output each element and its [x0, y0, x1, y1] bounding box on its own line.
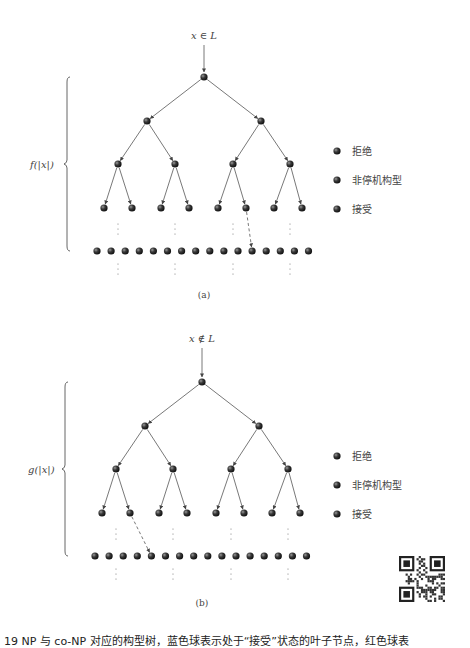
- tree-node: [298, 204, 305, 211]
- leaf-node: [277, 247, 284, 254]
- leaf-node: [303, 552, 310, 559]
- leaf-node: [178, 247, 185, 254]
- tree-node: [155, 509, 162, 516]
- tree-node: [198, 378, 205, 385]
- legend-label: 非停机构型: [352, 174, 402, 186]
- red-ball-icon: [333, 452, 340, 459]
- leaf-node: [249, 247, 256, 254]
- tree-node: [212, 509, 219, 516]
- tree-node: [171, 160, 178, 167]
- leaf-node: [122, 247, 129, 254]
- leaf-node: [247, 552, 254, 559]
- tree-node: [284, 465, 291, 472]
- legend-label: 接受: [352, 203, 372, 215]
- legend-b: 拒绝非停机构型接受: [333, 450, 402, 520]
- tree-node: [183, 509, 190, 516]
- tree-node: [100, 204, 107, 211]
- tree-node: [114, 160, 121, 167]
- tree-node: [157, 204, 164, 211]
- leaf-node: [120, 552, 127, 559]
- tree-node: [227, 465, 234, 472]
- panel-a: x ∈ L f(|x|) (a): [29, 30, 312, 300]
- legend-a: 拒绝非停机构型接受: [333, 145, 402, 215]
- tree-node: [229, 160, 236, 167]
- leaf-node: [291, 247, 298, 254]
- legend-label: 拒绝: [352, 450, 372, 462]
- dark-ball-icon: [333, 176, 340, 183]
- leaf-node: [176, 552, 183, 559]
- legend-label: 非停机构型: [352, 479, 402, 491]
- leaf-node: [108, 247, 115, 254]
- brace-b: [62, 382, 68, 556]
- leaf-node: [263, 247, 270, 254]
- sublabel-a: (a): [198, 290, 210, 300]
- tree-node: [286, 160, 293, 167]
- dark-ball-icon: [333, 481, 340, 488]
- leaf-node: [289, 552, 296, 559]
- leaf-node: [148, 552, 155, 559]
- tree-node: [296, 509, 303, 516]
- leaf-node: [275, 552, 282, 559]
- tree-node: [126, 509, 133, 516]
- blue-ball-icon: [333, 510, 340, 517]
- tree-node: [268, 509, 275, 516]
- leaf-node: [190, 552, 197, 559]
- tree-node: [257, 117, 264, 124]
- legend-label: 拒绝: [352, 145, 372, 157]
- tree-node: [214, 204, 221, 211]
- leaf-node: [136, 247, 143, 254]
- input-label-a: x ∈ L: [191, 30, 217, 41]
- leaf-node: [106, 552, 113, 559]
- leaf-node: [192, 247, 199, 254]
- leaf-node: [232, 552, 239, 559]
- leaf-node: [164, 247, 171, 254]
- leaf-node: [261, 552, 268, 559]
- leaf-node: [93, 247, 100, 254]
- brace-label-g: g(|x|): [28, 464, 55, 476]
- leaf-node: [162, 552, 169, 559]
- blue-ball-icon: [333, 205, 340, 212]
- leaf-node: [220, 247, 227, 254]
- tree-node: [240, 509, 247, 516]
- figure-caption: 19 NP 与 co-NP 对应的构型树，蓝色球表示处于“接受”状态的叶子节点，…: [4, 632, 409, 648]
- tree-node: [141, 422, 148, 429]
- leaf-node: [91, 552, 98, 559]
- leaf-node: [234, 247, 241, 254]
- leaf-node: [204, 552, 211, 559]
- tree-node: [143, 117, 150, 124]
- sublabel-b: (b): [196, 598, 209, 608]
- input-label-b: x ∉ L: [189, 333, 215, 344]
- leaf-node: [218, 552, 225, 559]
- tree-node: [98, 509, 105, 516]
- leaf-node: [305, 247, 312, 254]
- legend-label: 接受: [352, 508, 372, 520]
- brace-a: [64, 77, 70, 251]
- red-ball-icon: [333, 147, 340, 154]
- qr-code-icon: [399, 556, 445, 602]
- leaf-node: [206, 247, 213, 254]
- panel-b: x ∉ L g(|x|) (b): [28, 333, 310, 608]
- tree-node: [128, 204, 135, 211]
- tree-node: [242, 204, 249, 211]
- tree-node: [169, 465, 176, 472]
- tree-node: [255, 422, 262, 429]
- leaf-node: [150, 247, 157, 254]
- tree-node: [200, 73, 207, 80]
- leaf-node: [134, 552, 141, 559]
- tree-node: [112, 465, 119, 472]
- tree-node: [185, 204, 192, 211]
- brace-label-f: f(|x|): [29, 159, 54, 171]
- tree-node: [270, 204, 277, 211]
